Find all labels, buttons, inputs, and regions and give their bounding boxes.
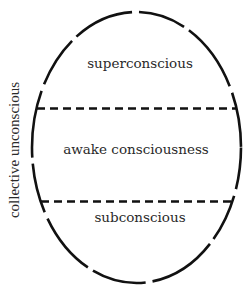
region-label-awake-consciousness: awake consciousness [63,141,209,157]
region-label-superconscious: superconscious [87,55,193,71]
side-label-collective-unconscious: collective unconscious [6,82,23,218]
region-label-subconscious: subconscious [94,209,185,225]
diagram-canvas: superconscious awake consciousness subco… [0,0,251,292]
consciousness-diagram: superconscious awake consciousness subco… [0,0,251,292]
